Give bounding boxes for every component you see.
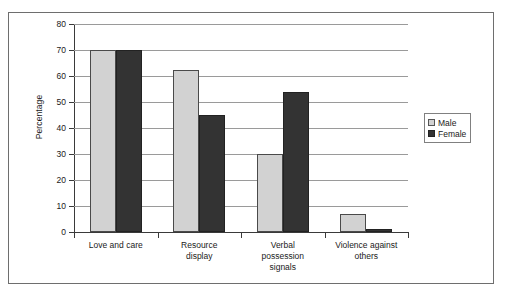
bar-female-1 — [199, 115, 225, 232]
x-axis-label-2: Verbalpossessionsignals — [241, 240, 325, 273]
y-tick-mark — [69, 180, 74, 181]
x-axis-label-line: display — [158, 251, 242, 262]
bar-female-0 — [116, 50, 142, 232]
y-tick-mark — [69, 50, 74, 51]
y-tick-label: 60 — [38, 71, 66, 81]
bar-male-2 — [257, 154, 283, 232]
x-axis-label-line: Violence against — [325, 240, 409, 251]
x-axis-label-3: Violence againstothers — [325, 240, 409, 262]
bar-female-3 — [366, 229, 392, 232]
y-tick-mark — [69, 102, 74, 103]
y-tick-label: 70 — [38, 45, 66, 55]
legend-swatch-male — [428, 119, 435, 126]
y-tick-label: 0 — [38, 227, 66, 237]
x-axis-label-line: Love and care — [74, 240, 158, 251]
x-axis-label-line: possession — [241, 251, 325, 262]
bar-female-2 — [283, 92, 309, 232]
x-axis-label-line: Verbal — [241, 240, 325, 251]
legend-label: Male — [438, 118, 456, 128]
x-axis-label-line: others — [325, 251, 409, 262]
legend-label: Female — [438, 129, 466, 139]
y-tick-label: 20 — [38, 175, 66, 185]
x-axis-label-0: Love and care — [74, 240, 158, 251]
y-tick-mark — [69, 128, 74, 129]
bar-male-1 — [173, 70, 199, 233]
x-axis-separator — [74, 232, 75, 238]
legend-swatch-female — [428, 130, 435, 137]
x-axis-separator — [241, 232, 242, 238]
x-axis-label-line: Resource — [158, 240, 242, 251]
y-tick-mark — [69, 206, 74, 207]
x-axis-label-line: signals — [241, 262, 325, 273]
y-tick-label: 30 — [38, 149, 66, 159]
x-axis-category-labels: Love and careResourcedisplayVerbalposses… — [74, 240, 408, 284]
plot-area — [74, 24, 408, 232]
x-axis-separator — [158, 232, 159, 238]
bar-chart-figure: Percentage 80706050403020100 Love and ca… — [0, 0, 506, 292]
bar-male-3 — [340, 214, 366, 232]
y-tick-mark — [69, 154, 74, 155]
legend-item-male: Male — [428, 117, 466, 128]
y-tick-mark — [69, 24, 74, 25]
y-tick-label: 80 — [38, 19, 66, 29]
y-tick-label: 40 — [38, 123, 66, 133]
x-axis-label-1: Resourcedisplay — [158, 240, 242, 262]
y-tick-label: 10 — [38, 201, 66, 211]
x-axis-separator — [325, 232, 326, 238]
x-axis-separator — [408, 232, 409, 238]
y-tick-mark — [69, 76, 74, 77]
chart-legend: MaleFemale — [424, 113, 471, 143]
gridline — [74, 24, 408, 25]
bar-male-0 — [90, 50, 116, 232]
legend-item-female: Female — [428, 128, 466, 139]
y-tick-label: 50 — [38, 97, 66, 107]
y-axis-tick-labels: 80706050403020100 — [36, 24, 66, 232]
